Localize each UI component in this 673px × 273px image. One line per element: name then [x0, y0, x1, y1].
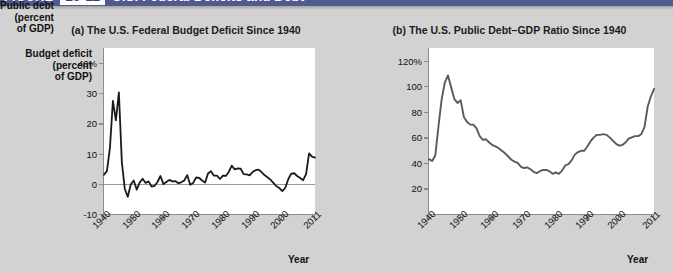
y-tick-label: 30: [55, 88, 97, 99]
panel-b-title: (b) The U.S. Public Debt–GDP Ratio Since…: [336, 24, 673, 36]
y-tick-label: 60: [380, 132, 422, 143]
y-tick-label: 20: [55, 118, 97, 129]
y-tick-label: -10: [55, 209, 97, 220]
y-tick-mark: [99, 154, 104, 155]
y-tick-label: 120%: [380, 55, 422, 66]
y-tick-label: 40: [380, 157, 422, 168]
panel-b-plot-area: [428, 48, 654, 215]
y-tick-label: 20: [380, 183, 422, 194]
x-axis-name: Year: [627, 254, 648, 265]
panel-b-y-axis-caption: Public debt (percent of GDP): [0, 0, 54, 35]
data-series-line: [104, 48, 315, 214]
y-tick-mark: [99, 63, 104, 64]
y-tick-label: 80: [380, 106, 422, 117]
y-tick-mark: [424, 61, 429, 62]
y-tick-label: 0: [55, 178, 97, 189]
y-tick-mark: [424, 163, 429, 164]
figure-root: FIGURE 15-11 U.S. Federal Deficits and D…: [0, 0, 673, 273]
y-tick-mark: [424, 188, 429, 189]
y-tick-label: 10: [55, 148, 97, 159]
x-axis-name: Year: [288, 254, 309, 265]
y-tick-label: 100: [380, 81, 422, 92]
y-tick-mark: [424, 137, 429, 138]
y-tick-mark: [99, 184, 104, 185]
data-series-line: [429, 48, 654, 214]
y-tick-mark: [99, 93, 104, 94]
y-tick-mark: [424, 86, 429, 87]
panel-a: (a) The U.S. Federal Budget Deficit Sinc…: [0, 0, 336, 273]
y-tick-mark: [99, 123, 104, 124]
y-tick-label: 40%: [55, 58, 97, 69]
panel-a-plot-area: [103, 48, 315, 215]
y-tick-mark: [424, 112, 429, 113]
